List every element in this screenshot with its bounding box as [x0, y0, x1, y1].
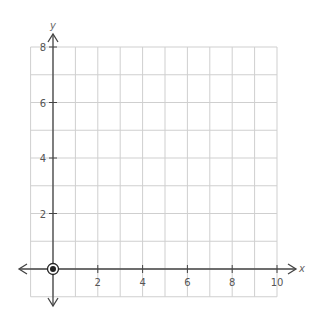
- x-tick-label: 2: [95, 277, 101, 288]
- grid: [31, 47, 277, 297]
- y-tick-label: 6: [40, 98, 46, 109]
- y-tick-label: 8: [40, 42, 46, 53]
- x-tick-label: 6: [184, 277, 190, 288]
- points: [48, 264, 59, 275]
- x-tick-label: 10: [271, 277, 284, 288]
- data-point: [50, 266, 56, 272]
- x-axis-label: x: [298, 263, 305, 274]
- x-tick-label: 8: [229, 277, 235, 288]
- y-tick-label: 2: [40, 209, 46, 220]
- y-tick-label: 4: [40, 153, 46, 164]
- axes: x y: [19, 20, 305, 306]
- y-axis-label: y: [49, 20, 57, 31]
- x-tick-label: 4: [139, 277, 145, 288]
- coordinate-plane: x y 2468102468: [0, 0, 323, 321]
- ticks: 2468102468: [40, 42, 284, 288]
